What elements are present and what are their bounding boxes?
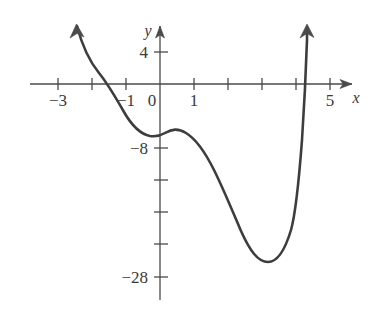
quartic-plot: −3 −1 0 1 5 4 −8 −28 y x <box>0 0 380 315</box>
x-tick-label-1: 1 <box>190 91 199 110</box>
y-tick-label-4: 4 <box>140 43 149 62</box>
y-tick-label-neg28: −28 <box>121 268 148 287</box>
x-tick-label-neg3: −3 <box>49 91 67 110</box>
x-tick-label-zero: 0 <box>148 91 157 110</box>
graph-figure: −3 −1 0 1 5 4 −8 −28 y x <box>0 0 380 315</box>
y-tick-label-neg8: −8 <box>130 139 148 158</box>
function-curve <box>77 26 307 262</box>
x-tick-label-5: 5 <box>326 91 335 110</box>
x-tick-label-neg1: −1 <box>117 91 135 110</box>
y-axis-label: y <box>142 22 152 40</box>
curve-left-arrow-icon <box>70 24 84 38</box>
x-axis-label: x <box>351 89 359 106</box>
